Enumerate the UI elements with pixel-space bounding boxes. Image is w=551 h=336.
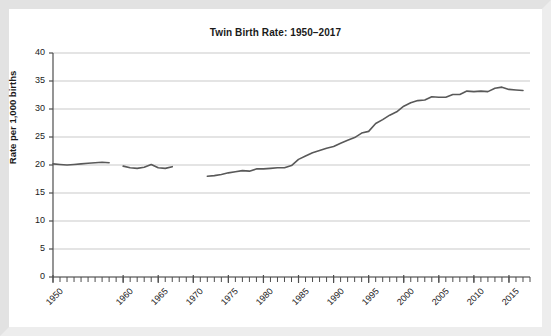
x-axis-major-ticks — [53, 275, 509, 283]
data-series-line — [53, 87, 523, 176]
plot-area — [0, 0, 551, 336]
series-segment — [207, 87, 523, 176]
chart-canvas: Twin Birth Rate: 1950–2017 Rate per 1,00… — [0, 0, 551, 336]
x-axis-minor-ticks — [53, 277, 530, 282]
